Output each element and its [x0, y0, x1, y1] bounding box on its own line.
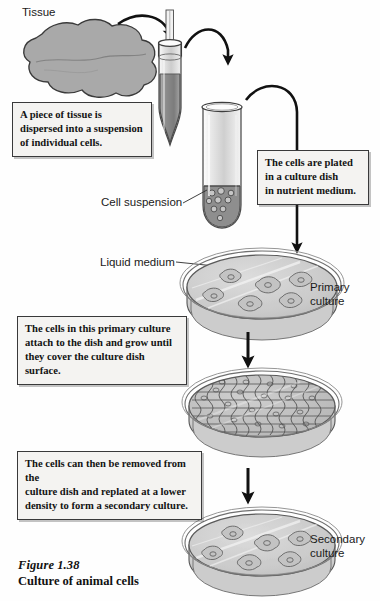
- caption-line: attach to the dish and grow until: [25, 336, 179, 350]
- label-liquid-medium: Liquid medium: [100, 256, 175, 270]
- caption-line: density to form a secondary culture.: [25, 499, 194, 513]
- caption-dispersal: A piece of tissue is dispersed into a su…: [12, 102, 152, 157]
- homogenizer-tube: [159, 10, 182, 145]
- arrow-tube-to-tube: [185, 30, 228, 61]
- label-tissue: Tissue: [22, 6, 55, 20]
- caption-line: in a culture dish: [265, 170, 361, 184]
- caption-line: culture dish and replated at a lower: [25, 485, 194, 499]
- figure-culture-of-animal-cells: Tissue Cell suspension Liquid medium Pri…: [0, 0, 380, 601]
- label-secondary-culture: Secondary culture: [310, 533, 374, 560]
- figure-number: Figure 1.38: [18, 558, 139, 573]
- caption-line: A piece of tissue is: [20, 108, 144, 122]
- suspension-tube: [202, 102, 242, 228]
- confluent-dish: [182, 368, 342, 457]
- label-primary-culture: Primary culture: [310, 281, 372, 308]
- caption-line: in nutrient medium.: [265, 184, 361, 198]
- caption-line: they cover the culture dish surface.: [25, 350, 179, 378]
- label-cell-suspension: Cell suspension: [101, 196, 182, 210]
- caption-line: The cells are plated: [265, 156, 361, 170]
- caption-plating: The cells are plated in a culture dish i…: [257, 150, 369, 205]
- caption-line: The cells can then be removed from the: [25, 457, 194, 485]
- figure-title: Culture of animal cells: [18, 574, 139, 589]
- caption-line: The cells in this primary culture: [25, 322, 179, 336]
- figure-caption: Figure 1.38 Culture of animal cells: [18, 558, 139, 589]
- caption-replate: The cells can then be removed from the c…: [17, 451, 202, 520]
- caption-attach-grow: The cells in this primary culture attach…: [17, 316, 187, 385]
- tissue-blob: [24, 19, 156, 97]
- caption-line: of individual cells.: [20, 136, 144, 150]
- caption-line: dispersed into a suspension: [20, 122, 144, 136]
